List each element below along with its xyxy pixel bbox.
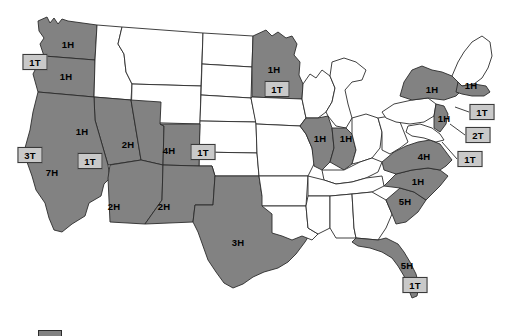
state-north-dakota[interactable] — [202, 33, 253, 67]
state-montana[interactable] — [118, 27, 203, 86]
state-south-dakota[interactable] — [201, 64, 252, 98]
t-callout-massachusetts[interactable]: 1T — [470, 104, 495, 120]
state-arkansas[interactable] — [259, 176, 308, 206]
t-callout-colorado[interactable]: 1T — [191, 144, 216, 160]
state-iowa[interactable] — [251, 97, 306, 126]
t-callout-minnesota[interactable]: 1T — [265, 81, 290, 97]
t-callout-virginia[interactable]: 1T — [458, 151, 483, 167]
state-ohio[interactable] — [352, 114, 382, 164]
state-mississippi[interactable] — [306, 196, 330, 234]
t-callout-california[interactable]: 3T — [18, 147, 43, 163]
state-nebraska[interactable] — [200, 95, 256, 122]
t-callout-florida[interactable]: 1T — [403, 277, 428, 293]
state-new-jersey[interactable] — [434, 104, 448, 132]
us-map-svg — [0, 0, 509, 336]
state-georgia[interactable] — [352, 192, 392, 240]
us-map-container: 1H 1H 1H 7H 2H 4H 2H 2H 3H 1H 1H 1H 1H 1… — [0, 0, 509, 336]
state-pennsylvania[interactable] — [382, 98, 436, 124]
state-new-york[interactable] — [400, 66, 462, 100]
t-callout-nevada[interactable]: 1T — [78, 153, 103, 169]
legend-color-swatch — [38, 330, 62, 336]
t-callout-new-jersey[interactable]: 2T — [466, 127, 491, 143]
state-vermont-nh-maine[interactable] — [452, 36, 492, 86]
t-callout-washington[interactable]: 1T — [23, 54, 48, 70]
